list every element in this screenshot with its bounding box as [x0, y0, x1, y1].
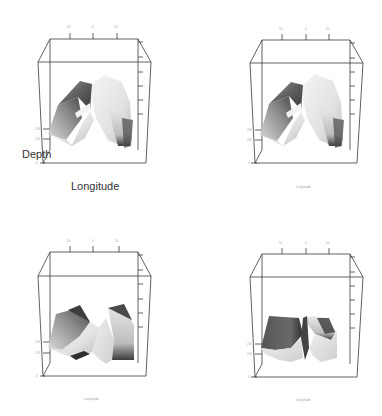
top-tick-label: 50: [326, 27, 329, 31]
top-tick-label: -50: [278, 27, 282, 31]
plot-box-3d: [0, 0, 191, 208]
surface-plot-panel-1: -50 0 50 200 100 0 Depth Longitude: [0, 0, 191, 208]
top-tick-label: 0: [305, 27, 307, 31]
side-tick-label: 0: [248, 161, 250, 165]
top-tick-label: 50: [115, 239, 118, 243]
side-tick-label: 100: [247, 352, 252, 356]
plot-box-3d: [191, 0, 382, 208]
side-tick-label: 0: [248, 375, 250, 379]
x-axis-label: Longitude: [71, 180, 119, 192]
side-tick-label: 200: [247, 342, 252, 346]
side-tick-label: 200: [35, 127, 40, 131]
side-tick-label: 200: [247, 128, 252, 132]
side-tick-label: 0: [36, 161, 38, 165]
surface-mesh: [261, 316, 337, 362]
z-axis-label: Depth: [22, 148, 51, 160]
x-axis-label: Longitude: [296, 398, 311, 402]
top-tick-label: 50: [114, 25, 117, 29]
side-tick-label: 100: [35, 351, 40, 355]
top-tick-label: 0: [305, 241, 307, 245]
side-tick-label: 200: [35, 340, 40, 344]
surface-mesh: [260, 74, 344, 148]
top-tick-label: -50: [66, 25, 70, 29]
side-tick-label: 0: [36, 374, 38, 378]
side-tick-label: 100: [247, 138, 252, 142]
top-tick-label: -50: [66, 239, 70, 243]
top-tick-label: 0: [92, 239, 94, 243]
surface-plot-panel-2: -50 0 50 200 100 0 Longitude: [191, 0, 382, 208]
top-tick-label: 50: [326, 241, 329, 245]
x-axis-label: Longitude: [84, 397, 99, 401]
surface-plot-panel-3: -50 0 50 200 100 0 Longitude: [0, 208, 191, 416]
top-tick-label: -50: [278, 241, 282, 245]
plot-box-3d: [0, 208, 191, 416]
surface-plot-panel-4: -50 0 50 200 100 0 Longitude: [191, 208, 382, 416]
top-tick-label: 0: [92, 25, 94, 29]
surface-mesh: [48, 75, 133, 148]
x-axis-label: Longitude: [296, 185, 311, 189]
surface-mesh: [48, 304, 134, 364]
plot-box-3d: [191, 208, 382, 416]
side-tick-label: 100: [35, 137, 40, 141]
